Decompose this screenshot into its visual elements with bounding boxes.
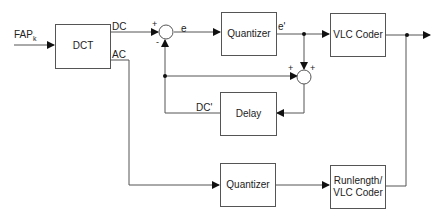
runlength-label-line2: VLC Coder (333, 187, 382, 200)
vlc-coder-block: VLC Coder (330, 13, 386, 57)
delay-block: Delay (220, 92, 277, 136)
runlength-vlc-coder-block: Runlength/ VLC Coder (330, 165, 386, 209)
dc-quantizer-label: Quantizer (227, 28, 270, 41)
error-signal-label: e (181, 24, 187, 34)
input-label-text: FAP (14, 29, 33, 40)
dct-block: DCT (55, 24, 111, 69)
dc-quantizer-block: Quantizer (221, 12, 277, 56)
input-label: FAPk (14, 30, 36, 42)
reconstructed-dc-label: DC' (196, 103, 212, 113)
ac-quantizer-label: Quantizer (226, 179, 269, 192)
adder-left-plus-sign: + (288, 64, 293, 73)
ac-quantizer-block: Quantizer (220, 163, 276, 207)
dc-signal-label: DC (112, 22, 126, 32)
ac-signal-label: AC (112, 50, 126, 60)
quantized-error-label: e' (278, 22, 285, 32)
subtractor-minus-sign: - (156, 38, 159, 47)
vlc-coder-label: VLC Coder (333, 29, 382, 42)
input-subscript: k (33, 35, 37, 42)
subtractor-plus-sign: + (152, 20, 157, 29)
runlength-label-line1: Runlength/ (334, 175, 382, 188)
adder-top-plus-sign: + (310, 64, 315, 73)
delay-label: Delay (236, 108, 262, 121)
dct-label: DCT (73, 40, 94, 53)
